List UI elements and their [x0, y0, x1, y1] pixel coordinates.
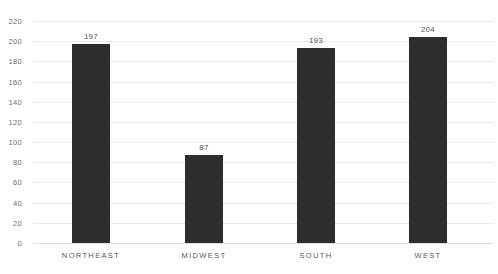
gridline	[33, 243, 494, 244]
x-axis-label: NORTHEAST	[31, 252, 151, 260]
y-axis-tick-label: 20	[0, 219, 22, 227]
y-axis-tick-label: 100	[0, 139, 22, 147]
bar[interactable]	[185, 155, 223, 243]
bar[interactable]	[297, 48, 335, 243]
x-axis-label: WEST	[368, 252, 488, 260]
bar-value-label: 87	[174, 144, 234, 152]
plot-area: 220200180160140120100806040200	[33, 21, 494, 243]
y-axis-tick-label: 140	[0, 98, 22, 106]
y-axis-tick-label: 200	[0, 38, 22, 46]
y-axis-tick-label: 160	[0, 78, 22, 86]
chart-title	[0, 0, 498, 2]
y-axis-tick-label: 60	[0, 179, 22, 187]
bar-value-label: 197	[61, 33, 121, 41]
gridline	[33, 21, 494, 22]
x-axis-label: SOUTH	[256, 252, 376, 260]
bar[interactable]	[72, 44, 110, 243]
y-axis-tick-label: 40	[0, 199, 22, 207]
y-axis-tick-label: 180	[0, 58, 22, 66]
y-axis-tick-label: 220	[0, 18, 22, 26]
bar-value-label: 204	[398, 26, 458, 34]
x-axis-label: MIDWEST	[144, 252, 264, 260]
bar-chart: 220200180160140120100806040200 NORTHEAST…	[0, 0, 498, 274]
bar-value-label: 193	[286, 37, 346, 45]
y-axis-tick-label: 0	[0, 240, 22, 248]
bar[interactable]	[409, 37, 447, 243]
y-axis-tick-label: 80	[0, 159, 22, 167]
y-axis-tick-label: 120	[0, 118, 22, 126]
